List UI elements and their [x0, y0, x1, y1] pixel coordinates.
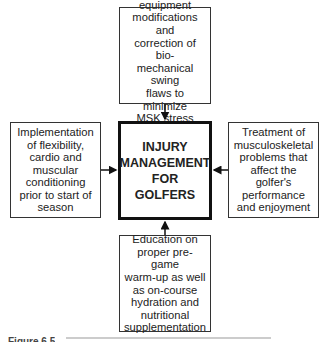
figure-caption: Figure 6.5 [8, 335, 55, 342]
connector-layer [0, 0, 326, 342]
caption-rule [66, 337, 271, 339]
